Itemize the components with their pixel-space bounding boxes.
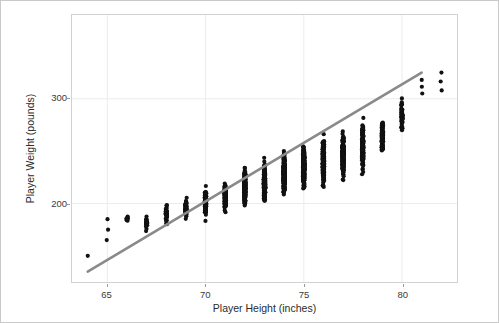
plot-panel bbox=[71, 14, 458, 283]
y-tick-mark bbox=[67, 98, 70, 99]
figure-container: 200300 65707580 Player Weight (pounds) P… bbox=[0, 0, 499, 323]
x-tick-label: 65 bbox=[87, 289, 127, 300]
data-layer bbox=[72, 15, 457, 282]
y-tick-mark bbox=[67, 204, 70, 205]
x-axis-label: Player Height (inches) bbox=[71, 302, 458, 314]
x-tick-label: 70 bbox=[185, 289, 225, 300]
x-tick-mark bbox=[304, 284, 305, 287]
x-tick-mark bbox=[107, 284, 108, 287]
x-tick-mark bbox=[403, 284, 404, 287]
y-axis-label: Player Weight (pounds) bbox=[23, 14, 37, 283]
x-tick-label: 75 bbox=[284, 289, 324, 300]
x-tick-mark bbox=[205, 284, 206, 287]
x-tick-label: 80 bbox=[383, 289, 423, 300]
x-axis: 65707580 bbox=[71, 284, 458, 302]
y-axis-label-wrap: Player Weight (pounds) bbox=[23, 14, 37, 283]
